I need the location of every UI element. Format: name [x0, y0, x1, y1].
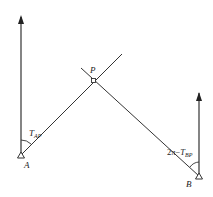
angle-b-sub: BP: [185, 152, 193, 158]
angle-arc-a: [21, 140, 31, 144]
label-b: B: [186, 179, 192, 189]
intersection-diagram: P A B TAP 2π−TBP: [0, 0, 213, 197]
angle-a-sub: AP: [33, 133, 42, 139]
line-bp: [81, 68, 199, 176]
north-arrowhead-a: [18, 15, 24, 24]
north-arrowhead-b: [196, 92, 202, 101]
angle-label-b: 2π−TBP: [167, 147, 193, 158]
label-a: A: [23, 160, 30, 170]
line-ap: [21, 54, 122, 155]
svg-text:TAP: TAP: [29, 128, 42, 139]
label-p: P: [89, 65, 96, 75]
angle-arc-b: [190, 162, 199, 167]
point-p-marker: [92, 79, 96, 83]
angle-b-prefix: 2π−: [167, 147, 181, 157]
angle-label-a: TAP: [29, 128, 42, 139]
svg-text:2π−TBP: 2π−TBP: [167, 147, 193, 158]
